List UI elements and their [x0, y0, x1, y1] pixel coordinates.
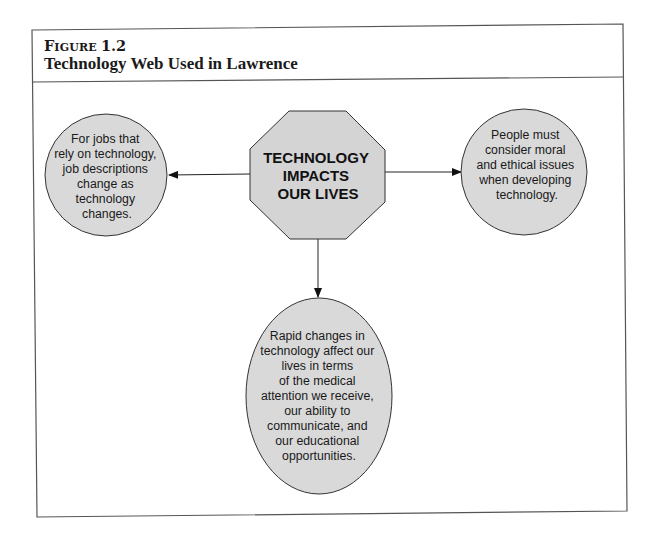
- node-center: TECHNOLOGY IMPACTS OUR LIVES: [250, 111, 385, 239]
- node-left: For jobs that rely on technology, job de…: [45, 114, 167, 236]
- node-bottom: Rapid changes in technology affect our l…: [246, 298, 392, 494]
- figure-canvas: FIGURE1.2 Technology Web Used in Lawrenc…: [0, 0, 656, 539]
- node-right: People must consider moral and ethical i…: [461, 109, 587, 235]
- figure-title: Technology Web Used in Lawrence: [44, 54, 298, 73]
- node-bottom-text: Rapid changes in technology affect our l…: [260, 329, 377, 463]
